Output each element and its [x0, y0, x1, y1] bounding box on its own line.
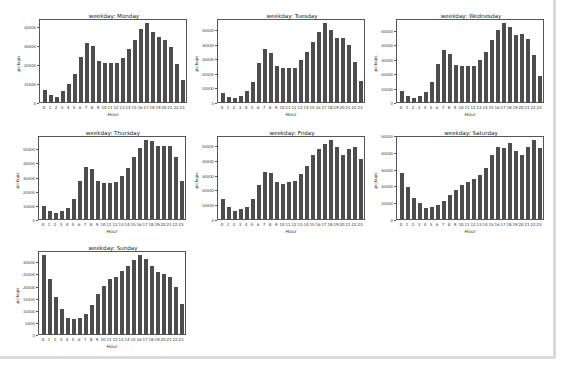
- x-tick-label: 14: [482, 222, 487, 227]
- bar-hour-16: [496, 30, 499, 102]
- x-tick-label: 10: [458, 222, 463, 227]
- x-axis-label: Hour: [217, 229, 365, 234]
- x-tick-label: 6: [436, 105, 439, 110]
- bar-hour-13: [478, 175, 481, 219]
- plot-area: [38, 136, 186, 220]
- bar-hour-3: [239, 209, 242, 219]
- x-tick-label: 11: [285, 105, 290, 110]
- x-tick-label: 2: [55, 105, 58, 110]
- bar-hour-14: [127, 49, 130, 102]
- x-tick-label: 4: [424, 222, 427, 227]
- x-tick-label: 10: [100, 222, 105, 227]
- y-tick-label: 30000: [23, 175, 35, 180]
- y-tick-label: 50000: [202, 28, 214, 33]
- bar-hour-15: [311, 42, 314, 102]
- y-axis-label: pickups: [373, 173, 378, 189]
- x-tick-label: 14: [303, 222, 308, 227]
- bar-hour-6: [257, 63, 260, 102]
- x-tick-label: 22: [351, 105, 356, 110]
- x-tick-label: 22: [172, 222, 177, 227]
- x-tick-label: 23: [536, 105, 541, 110]
- x-tick-label: 3: [418, 105, 421, 110]
- bar-hour-9: [97, 61, 100, 102]
- y-tick-mark: [215, 103, 218, 104]
- bar-hour-23: [538, 148, 541, 219]
- y-tick-label: 50000: [23, 147, 35, 152]
- bar-hour-21: [347, 45, 350, 102]
- x-tick-label: 0: [221, 222, 224, 227]
- bar-hour-15: [490, 155, 493, 219]
- bar-hour-20: [162, 274, 165, 334]
- x-tick-label: 19: [333, 222, 338, 227]
- x-tick-label: 13: [118, 337, 123, 342]
- x-tick-label: 2: [54, 222, 57, 227]
- x-tick-label: 13: [119, 105, 124, 110]
- bar-hour-9: [96, 181, 99, 219]
- bar-hour-21: [168, 146, 171, 219]
- x-tick-label: 14: [482, 105, 487, 110]
- x-tick-label: 21: [345, 105, 350, 110]
- x-tick-label: 7: [442, 105, 445, 110]
- bar-hour-16: [317, 32, 320, 102]
- x-tick-label: 15: [488, 105, 493, 110]
- chart-saturday: weekday: Saturdaypickups0100002000030000…: [370, 130, 548, 242]
- bar-hour-13: [299, 174, 302, 219]
- x-tick-label: 12: [113, 105, 118, 110]
- x-tick-label: 8: [90, 337, 93, 342]
- bar-hour-18: [508, 27, 511, 102]
- bar-hour-5: [251, 199, 254, 219]
- x-tick-label: 16: [136, 337, 141, 342]
- bar-hour-23: [180, 304, 183, 334]
- bar-hour-6: [78, 181, 81, 219]
- bar-hour-22: [353, 147, 356, 219]
- x-tick-label: 23: [357, 105, 362, 110]
- bar-hour-6: [257, 185, 260, 219]
- bar-hour-2: [55, 97, 58, 102]
- y-tick-label: 50000: [202, 143, 214, 148]
- x-tick-label: 11: [464, 222, 469, 227]
- plot-area: [217, 136, 365, 220]
- bar-hour-0: [221, 199, 224, 219]
- notebook-output-frame: weekday: Mondaypickups010000200003000040…: [0, 0, 556, 359]
- x-tick-label: 19: [154, 222, 159, 227]
- x-tick-label: 17: [321, 222, 326, 227]
- bar-hour-14: [484, 168, 487, 219]
- bar-hour-14: [305, 52, 308, 102]
- bar-hour-23: [538, 76, 541, 102]
- x-tick-label: 23: [357, 222, 362, 227]
- x-tick-label: 17: [143, 105, 148, 110]
- y-tick-label: 10000: [202, 86, 214, 91]
- bar-hour-13: [121, 58, 124, 102]
- bar-hour-8: [448, 195, 451, 219]
- bar-hour-11: [466, 182, 469, 219]
- x-tick-label: 9: [97, 105, 100, 110]
- x-tick-label: 21: [524, 222, 529, 227]
- x-tick-label: 1: [227, 105, 230, 110]
- y-tick-label: 20000: [202, 188, 214, 193]
- bar-hour-5: [72, 319, 75, 334]
- y-tick-label: 20000: [381, 72, 393, 77]
- bar-hour-15: [132, 157, 135, 219]
- x-tick-label: 0: [400, 105, 403, 110]
- bar-hour-3: [418, 203, 421, 219]
- y-axis-label: pickups: [194, 56, 199, 72]
- bar-hour-18: [150, 141, 153, 219]
- bar-hour-15: [132, 260, 135, 334]
- bar-hour-14: [484, 52, 487, 102]
- bar-hour-4: [245, 91, 248, 102]
- x-tick-label: 21: [166, 337, 171, 342]
- y-tick-label: 40000: [24, 24, 36, 29]
- x-tick-label: 6: [257, 222, 260, 227]
- chart-monday: weekday: Mondaypickups010000200003000040…: [13, 13, 191, 125]
- bar-hour-8: [448, 54, 451, 102]
- bar-hour-3: [60, 309, 63, 334]
- x-tick-label: 11: [107, 105, 112, 110]
- x-tick-label: 5: [430, 105, 433, 110]
- x-tick-label: 18: [149, 105, 154, 110]
- bar-hour-13: [478, 60, 481, 102]
- y-tick-label: 50000: [381, 28, 393, 33]
- x-tick-label: 13: [476, 222, 481, 227]
- x-tick-label: 18: [327, 222, 332, 227]
- bar-hour-11: [109, 63, 112, 102]
- x-tick-label: 18: [506, 222, 511, 227]
